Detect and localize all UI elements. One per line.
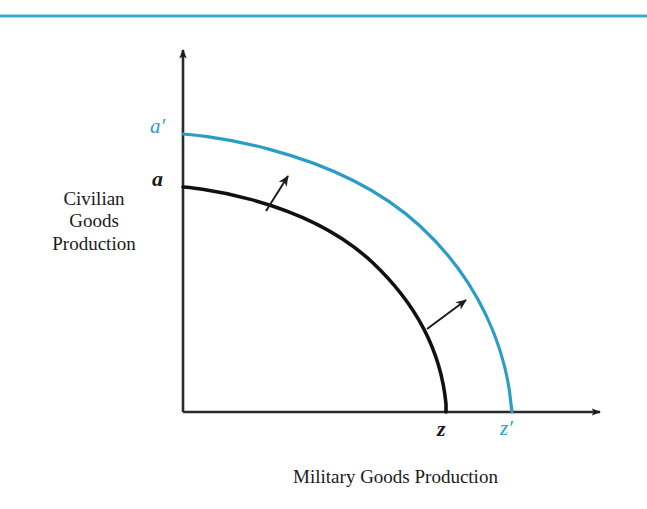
- outward-shift-arrow-lower: [427, 300, 466, 329]
- ppf-figure: Civilian Goods Production Military Goods…: [0, 0, 647, 509]
- y-axis-label-line-1: Civilian: [24, 188, 164, 210]
- x-axis-label: Military Goods Production: [183, 466, 608, 488]
- ppf-curve-original: [183, 187, 446, 412]
- label-z: z: [437, 416, 446, 442]
- ppf-curve-expanded: [183, 134, 512, 412]
- y-axis-label-line-3: Production: [24, 233, 164, 255]
- y-axis-label-line-2: Goods: [24, 210, 164, 232]
- y-axis-label: Civilian Goods Production: [24, 188, 164, 255]
- label-a: a: [152, 166, 163, 192]
- label-a-prime: a′: [150, 114, 165, 139]
- label-z-prime: z′: [500, 416, 513, 441]
